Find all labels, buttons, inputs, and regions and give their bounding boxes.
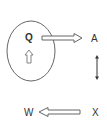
vertical-double-arrow-icon [95, 55, 99, 80]
diagram-canvas [0, 0, 107, 128]
label-x: X [92, 108, 99, 118]
up-arrow-icon [25, 50, 33, 63]
left-arrow-icon [39, 108, 80, 117]
label-w: W [24, 108, 33, 118]
right-arrow-icon [42, 34, 82, 43]
label-q: Q [25, 33, 33, 43]
label-a: A [91, 34, 98, 44]
container-ellipse [7, 21, 55, 81]
